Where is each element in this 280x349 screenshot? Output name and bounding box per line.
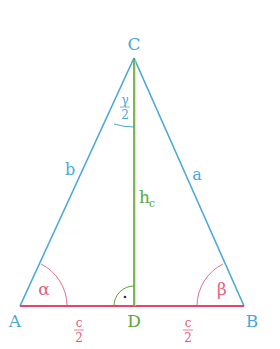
side-a xyxy=(134,58,244,306)
segment-ad-denominator: 2 xyxy=(75,331,83,345)
vertex-label-a: A xyxy=(8,311,22,331)
angle-label-alpha: α xyxy=(38,279,50,299)
segment-db-numerator: c xyxy=(185,316,192,330)
angle-arc-gamma-half xyxy=(114,124,134,127)
side-label-a: a xyxy=(192,165,202,184)
right-angle-arc xyxy=(114,286,134,306)
altitude-label-subscript: c xyxy=(149,197,155,210)
isosceles-triangle-diagram: C A B D b a h c α β γ 2 c 2 c 2 xyxy=(0,0,280,349)
vertex-label-d: D xyxy=(127,311,141,331)
angle-label-beta: β xyxy=(217,279,227,299)
side-label-b: b xyxy=(65,160,75,179)
right-angle-dot xyxy=(124,296,127,299)
angle-label-gamma-numerator: γ xyxy=(121,93,128,107)
vertex-label-b: B xyxy=(246,311,259,331)
angle-label-gamma-denominator: 2 xyxy=(121,108,129,122)
segment-db-denominator: 2 xyxy=(184,331,192,345)
segment-ad-numerator: c xyxy=(76,316,83,330)
side-b xyxy=(20,58,134,306)
vertex-label-c: C xyxy=(127,34,140,54)
